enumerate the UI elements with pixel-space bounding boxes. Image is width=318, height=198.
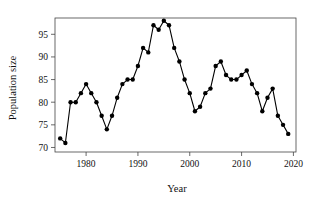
data-point — [136, 64, 140, 68]
data-point — [188, 91, 192, 95]
data-point — [84, 82, 88, 86]
x-tick-label: 2010 — [232, 159, 251, 169]
population-size-chart: 19801990200020102020 707580859095 Year P… — [0, 0, 318, 198]
data-point — [115, 95, 119, 99]
data-point — [89, 91, 93, 95]
data-point — [172, 46, 176, 50]
data-point — [151, 23, 155, 27]
x-tick-label: 1990 — [128, 159, 147, 169]
data-point — [234, 77, 238, 81]
data-point — [131, 77, 135, 81]
data-point — [58, 136, 62, 140]
data-point — [162, 19, 166, 23]
data-point — [141, 46, 145, 50]
data-point — [276, 114, 280, 118]
y-tick-label: 90 — [39, 52, 49, 62]
data-point — [270, 86, 274, 90]
data-point — [213, 64, 217, 68]
data-point — [265, 95, 269, 99]
y-axis-title: Population size — [7, 55, 18, 120]
data-point — [125, 77, 129, 81]
data-point — [198, 105, 202, 109]
y-tick-label: 70 — [39, 143, 49, 153]
data-point — [239, 73, 243, 77]
data-point — [156, 28, 160, 32]
x-axis-title: Year — [167, 183, 187, 194]
data-point — [281, 123, 285, 127]
data-point — [203, 91, 207, 95]
data-point — [224, 73, 228, 77]
data-point — [260, 109, 264, 113]
y-tick-label: 80 — [39, 98, 49, 108]
data-point — [68, 100, 72, 104]
data-point — [177, 59, 181, 63]
data-point — [255, 91, 259, 95]
data-point — [245, 68, 249, 72]
data-point — [286, 132, 290, 136]
data-point — [208, 86, 212, 90]
data-point — [250, 82, 254, 86]
data-point — [219, 59, 223, 63]
data-point — [63, 141, 67, 145]
data-point — [74, 100, 78, 104]
x-tick-label: 2000 — [180, 159, 199, 169]
data-point — [229, 77, 233, 81]
data-point — [99, 114, 103, 118]
y-tick-label: 75 — [39, 120, 49, 130]
y-tick-label: 95 — [39, 30, 49, 40]
chart-canvas: 19801990200020102020 707580859095 Year P… — [0, 0, 318, 198]
x-tick-label: 2020 — [284, 159, 303, 169]
data-point — [120, 82, 124, 86]
data-point — [146, 50, 150, 54]
data-point — [182, 77, 186, 81]
x-tick-label: 1980 — [77, 159, 96, 169]
data-point — [79, 91, 83, 95]
data-point — [110, 114, 114, 118]
data-point — [167, 23, 171, 27]
data-point — [105, 127, 109, 131]
data-point — [193, 109, 197, 113]
y-tick-label: 85 — [39, 75, 49, 85]
data-point — [94, 100, 98, 104]
